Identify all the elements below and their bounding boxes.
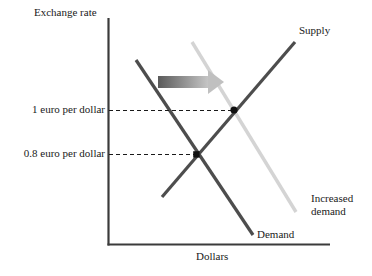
supply-curve — [162, 42, 295, 197]
exchange-rate-supply-demand-figure: Exchange rate Dollars 1 euro per dollar … — [0, 0, 372, 276]
increased-demand-curve-label: Increased demand — [311, 192, 369, 218]
y-axis-title: Exchange rate — [34, 6, 97, 19]
original-equilibrium-point — [193, 151, 199, 157]
x-axis-title: Dollars — [196, 250, 228, 263]
demand-shift-arrow — [158, 70, 224, 94]
plot-canvas — [0, 0, 372, 276]
y-tick-label-one-euro-per-dollar: 1 euro per dollar — [5, 103, 105, 116]
y-tick-label-point-eight-euro-per-dollar: 0.8 euro per dollar — [5, 147, 105, 160]
new-equilibrium-point — [230, 106, 237, 113]
demand-curve-label: Demand — [257, 228, 294, 241]
supply-curve-label: Supply — [299, 24, 330, 37]
increased-demand-curve — [192, 42, 296, 212]
